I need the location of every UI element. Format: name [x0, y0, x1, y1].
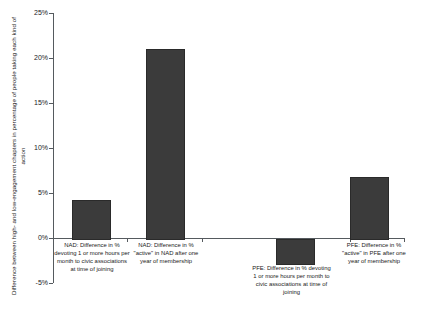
- bar-chart: Difference between high- and low-engagem…: [0, 0, 429, 321]
- y-axis-tick-labels: 25% 20% 15% 10% 5% 0% -5%: [10, 0, 48, 321]
- y-tick-mark-25: [49, 13, 53, 14]
- y-tick-label-10: 10%: [14, 144, 48, 151]
- bar-pfe-active-one-year[interactable]: [350, 177, 389, 240]
- y-tick-label-neg5: -5%: [14, 279, 48, 286]
- y-tick-mark-neg5: [49, 283, 53, 284]
- bar-nad-devoting-hours[interactable]: [72, 200, 111, 240]
- y-tick-label-0: 0%: [14, 234, 48, 241]
- x-category-label-3: PFE: Difference in % "active" in PFE aft…: [337, 241, 411, 265]
- x-category-label-2: PFE: Difference in % devoting 1 or more …: [252, 264, 331, 296]
- x-category-label-1: NAD: Difference in % "active" in NAD aft…: [131, 241, 201, 265]
- x-tick-mark-2: [202, 238, 203, 242]
- y-tick-label-15: 15%: [14, 99, 48, 106]
- y-tick-label-25: 25%: [14, 9, 48, 16]
- y-tick-label-20: 20%: [14, 54, 48, 61]
- bar-pfe-devoting-hours[interactable]: [276, 239, 315, 265]
- y-tick-mark-15: [49, 103, 53, 104]
- y-tick-label-5: 5%: [14, 189, 48, 196]
- x-category-label-0: NAD: Difference in % devoting 1 or more …: [54, 241, 130, 273]
- bar-nad-active-one-year[interactable]: [146, 49, 185, 240]
- y-tick-mark-20: [49, 58, 53, 59]
- y-tick-mark-5: [49, 193, 53, 194]
- y-tick-mark-10: [49, 148, 53, 149]
